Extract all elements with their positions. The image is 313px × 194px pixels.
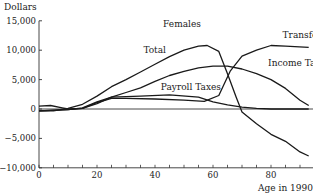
x-tick-label: 60 [208,170,219,180]
annotation-income-taxes: Income Taxes [268,58,313,68]
y-axis-label: Dollars [4,2,37,12]
y-tick-label: −10,000 [0,163,36,173]
x-tick-label: 20 [92,170,103,180]
annotation-payroll-taxes: Payroll Taxes [161,82,222,92]
annotation-total: Total [143,45,166,55]
y-tick-label: 15,000 [6,16,36,26]
chart-title: Females [163,19,201,29]
y-tick-label: 5,000 [12,75,36,85]
y-tick-label: 0 [31,104,36,114]
series-payroll-taxes [39,95,309,111]
y-tick-label: 10,000 [6,45,36,55]
annotation-transfers: Transfers [283,30,313,40]
x-axis-label: Age in 1990 [257,183,313,193]
y-tick-label: −5,000 [5,133,36,143]
axes: 15,00010,0005,0000−5,000−10,000020406080 [0,16,313,180]
x-tick-label: 0 [36,170,41,180]
line-chart: Dollars Age in 1990 Females 15,00010,000… [0,0,313,194]
x-tick-label: 80 [266,170,277,180]
annotation-layer: TotalTransfersIncome TaxesPayroll Taxes [143,30,313,92]
x-tick-label: 40 [150,170,161,180]
